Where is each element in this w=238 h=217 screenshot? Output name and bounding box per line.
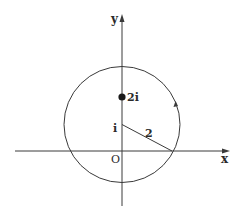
point-2i-label: 2i [127, 91, 139, 104]
radius-label: 2 [145, 127, 153, 140]
point-2i [118, 93, 125, 100]
x-axis-label: x [221, 152, 229, 166]
complex-plane-diagram: y x O 2i i 2 [0, 0, 238, 217]
orientation-arrow-icon [174, 101, 179, 107]
center-label: i [113, 122, 117, 135]
y-axis-arrow-icon [120, 14, 125, 22]
y-axis-label: y [110, 12, 119, 26]
origin-label: O [111, 153, 120, 166]
